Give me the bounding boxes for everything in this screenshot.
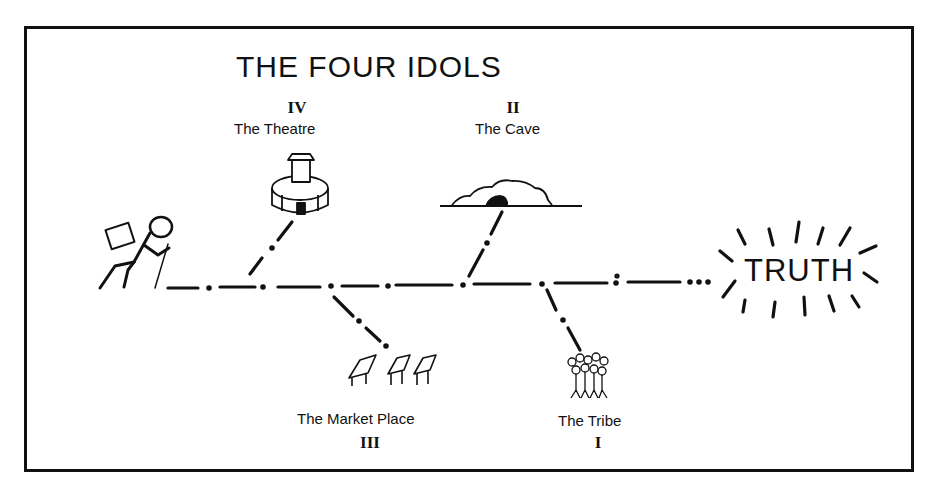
hiker-icon: [100, 217, 172, 288]
branch-theatre: [250, 222, 292, 274]
branch-tribe: [547, 290, 580, 350]
diagram-lines: [0, 0, 927, 496]
branch-cave: [469, 212, 502, 276]
branch-market-place: [334, 297, 387, 347]
crowd-icon: [568, 353, 608, 398]
theatre-icon: [272, 154, 328, 214]
main-path: [168, 275, 709, 289]
market-stalls-icon: [349, 355, 436, 386]
truth-rays-icon: [720, 222, 877, 317]
cave-icon: [440, 180, 582, 206]
